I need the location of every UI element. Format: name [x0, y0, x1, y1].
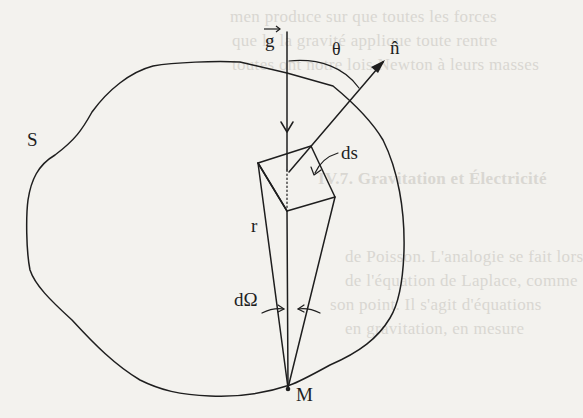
pyramid-edge [258, 163, 287, 211]
gravity-vector-label: g [265, 31, 275, 50]
pyramid-edge [258, 163, 288, 388]
surface-element-label: ds [341, 143, 358, 162]
closed-surface-outline [27, 62, 404, 397]
distance-label: r [251, 216, 257, 235]
point-m-dot [286, 387, 291, 392]
point-m-label: M [296, 385, 313, 404]
angle-theta-label: θ [332, 40, 341, 58]
pyramid-edge [287, 211, 288, 388]
normal-vector-label: n̂ [390, 38, 400, 57]
surface-label: S [27, 130, 38, 149]
normal-vector-line [289, 62, 383, 172]
surface-element-ds [258, 146, 335, 211]
normal-arrowhead-icon [371, 60, 385, 73]
pyramid-edge [288, 197, 335, 388]
solid-angle-label: dΩ [234, 290, 258, 309]
